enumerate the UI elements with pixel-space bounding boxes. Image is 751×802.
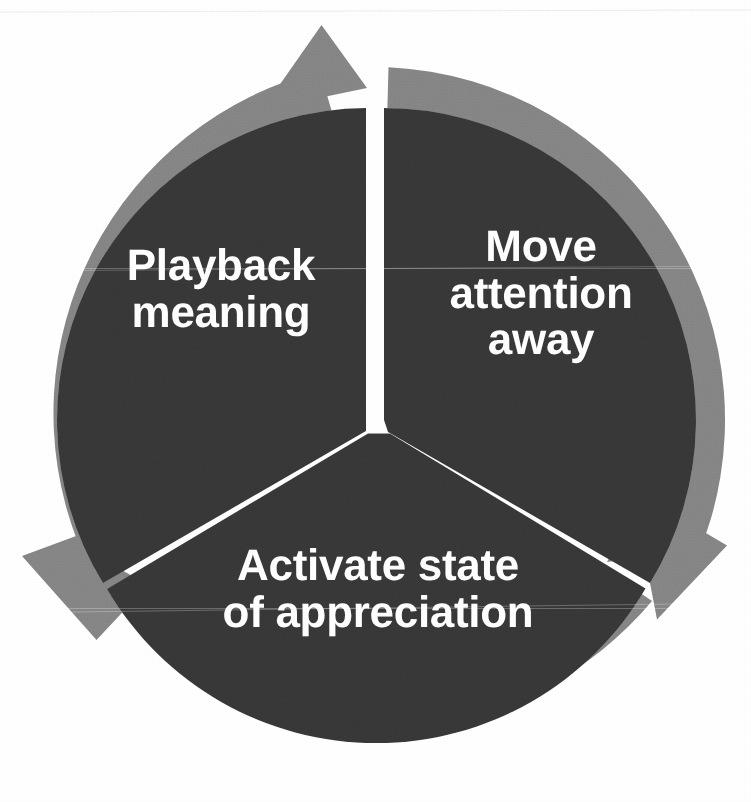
cycle-diagram	[0, 0, 751, 802]
inner-segments	[57, 108, 696, 743]
diagram-canvas: Playback meaning Move attention away Act…	[0, 0, 751, 802]
